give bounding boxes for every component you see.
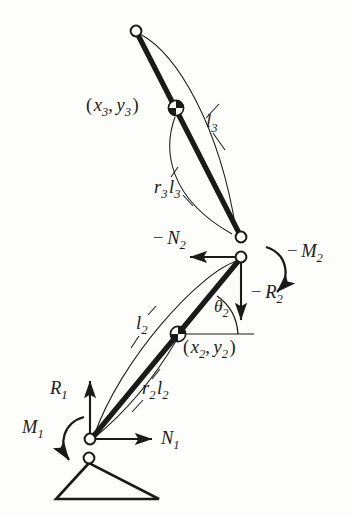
- link-3-bar: [137, 33, 240, 235]
- label-minus-R2: − R2: [251, 283, 283, 305]
- figure-canvas: ( x3, y3 ) l3 r3 l3 − N2 − M2 − R2 θ2 l2…: [0, 0, 352, 517]
- link2-base-pivot: [85, 434, 96, 445]
- label-N1: N1: [161, 429, 180, 451]
- label-minus-M2: − M2: [287, 242, 323, 264]
- dimension-arc-r3l3: [170, 117, 232, 234]
- label-r3l3: r3 l3: [154, 178, 180, 200]
- ground-support-triangle: [56, 463, 159, 499]
- label-l2: l2: [136, 314, 147, 336]
- label-l3: l3: [206, 112, 217, 134]
- label-minus-N2: − N2: [153, 229, 186, 251]
- label-theta-2: θ2: [214, 298, 229, 319]
- moment-arc-M1: [63, 417, 84, 460]
- label-coord-3: ( x3, y3 ): [86, 96, 139, 118]
- label-r2l2: r2 l2: [142, 379, 168, 401]
- link2-upper-pivot: [236, 252, 247, 263]
- link3-center-of-mass-marker: [168, 100, 183, 115]
- upper-link-tip-pivot: [131, 26, 142, 37]
- label-M1: M1: [22, 418, 44, 440]
- link3-lower-pivot: [236, 232, 247, 243]
- label-coord-2: ( x2, y2 ): [183, 338, 236, 360]
- label-R1: R1: [50, 379, 68, 401]
- ground-support-apex-pivot: [84, 453, 95, 464]
